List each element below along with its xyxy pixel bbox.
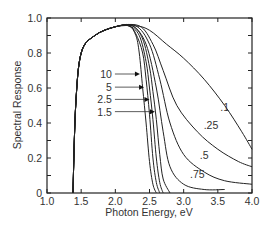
x-tick-label: 4.0 [245,195,260,207]
arrow-head-icon [139,85,144,90]
annotation-label: 1.5 [97,106,112,118]
y-tick-label: 0.8 [27,47,42,59]
annotation-label: 5 [106,81,112,93]
y-tick-label: 0.4 [27,117,42,129]
curve-2p5 [73,25,163,193]
spectral-response-chart: 1.01.52.02.53.03.54.000.20.40.60.81.0 10… [0,0,269,230]
x-tick-label: 1.5 [74,195,89,207]
y-tick-label: 0 [36,187,42,199]
y-tick-label: 0.6 [27,82,42,94]
chart-svg: 1.01.52.02.53.03.54.000.20.40.60.81.0 10… [0,0,269,230]
annotation-label: 10 [100,68,112,80]
x-axis-label: Photon Energy, eV [105,206,192,218]
y-tick-label: 0.2 [27,152,42,164]
y-axis-label: Spectral Response [11,60,23,149]
annotation-label: 2.5 [97,93,112,105]
arrow-head-icon [135,72,140,77]
curve-5 [73,25,160,193]
annotation-label: .75 [190,168,205,180]
annotation-label: .5 [200,149,209,161]
annotation-label: .1 [220,101,229,113]
annotation-label: .25 [204,119,219,131]
y-tick-label: 1.0 [27,12,42,24]
x-tick-label: 3.5 [211,195,226,207]
